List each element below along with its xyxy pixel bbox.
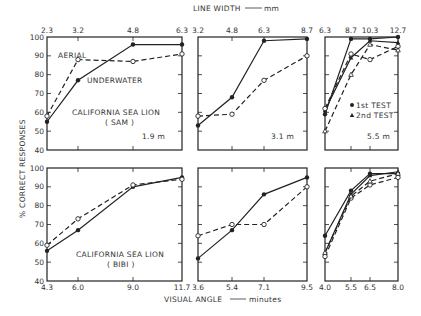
legend-1st-test: 1st TEST — [356, 101, 391, 110]
data-series — [45, 35, 401, 261]
series-underwater-2nd-test — [323, 169, 401, 254]
distance-label-3: 5.5 m — [367, 132, 390, 141]
x-tick-label: 4.0 — [319, 283, 331, 292]
distance-label-1: 1.9 m — [142, 132, 165, 141]
series-underwater — [45, 175, 184, 253]
panel-bibi-1: 4050607080901004.36.09.011.7 — [30, 164, 191, 292]
x-tick-label: 8.0 — [392, 283, 404, 292]
y-tick-label: 100 — [30, 164, 45, 173]
y-tick-label: 80 — [34, 201, 44, 210]
y-axis-title: % CORRECT RESPONSES — [18, 119, 27, 218]
underwater-label: UNDERWATER — [87, 76, 143, 85]
sam-label-2: ( SAM ) — [105, 118, 134, 127]
y-tick-label: 90 — [34, 51, 44, 60]
x-tick-label: 6.0 — [72, 283, 84, 292]
y-tick-label: 70 — [34, 89, 44, 98]
x-tick-label: 5.5 — [345, 283, 357, 292]
bibi-label-1: CALIFORNIA SEA LION — [76, 250, 164, 259]
y-tick-label: 90 — [34, 182, 44, 191]
x-tick-label: 11.7 — [174, 283, 191, 292]
y-tick-label: 80 — [34, 70, 44, 79]
x-tick-label: 3.2 — [192, 26, 204, 35]
x-tick-label: 5.4 — [226, 283, 238, 292]
y-tick-label: 50 — [34, 127, 44, 136]
legend-filled-circle-icon — [350, 103, 354, 107]
x-tick-label: 8.7 — [301, 26, 313, 35]
series-underwater — [196, 175, 309, 260]
x-tick-label: 6.3 — [258, 26, 270, 35]
x-tick-label: 12.7 — [390, 26, 407, 35]
sam-label-1: CALIFORNIA SEA LION — [72, 108, 160, 117]
x-tick-label: 9.0 — [127, 283, 139, 292]
y-tick-label: 60 — [34, 239, 44, 248]
top-axis-title: LINE WIDTH — [193, 4, 241, 13]
panel-sam-5.5m: 6.38.710.312.7 — [319, 26, 407, 150]
panel-bibi-3: 4.05.56.58.0 — [319, 168, 404, 292]
x-tick-label: 3.2 — [72, 26, 84, 35]
x-tick-label: 7.1 — [258, 283, 270, 292]
y-tick-label: 50 — [34, 258, 44, 267]
x-tick-label: 6.5 — [364, 283, 376, 292]
series-underwater-1st-test — [323, 171, 400, 238]
chart-figure: 4050607080901002.33.24.86.33.24.86.38.76… — [0, 0, 421, 316]
series-aerial — [196, 185, 309, 238]
x-tick-label: 6.3 — [319, 26, 331, 35]
x-tick-label: 4.8 — [127, 26, 139, 35]
bibi-label-2: ( BIBI ) — [107, 260, 135, 269]
panel-bibi-2: 3.65.47.19.5 — [192, 168, 313, 292]
x-tick-label: 3.6 — [192, 283, 204, 292]
bottom-axis-unit: minutes — [249, 295, 281, 304]
x-tick-label: 4.3 — [41, 283, 53, 292]
aerial-label: AERIAL — [58, 51, 87, 60]
y-tick-label: 70 — [34, 220, 44, 229]
series-aerial — [196, 54, 309, 119]
x-tick-label: 6.3 — [176, 26, 188, 35]
legend-triangle-icon — [350, 113, 355, 117]
y-tick-label: 60 — [34, 108, 44, 117]
x-tick-label: 10.3 — [362, 26, 379, 35]
x-tick-label: 9.5 — [301, 283, 313, 292]
series-aerial — [45, 177, 184, 247]
series-underwater — [196, 37, 309, 128]
y-tick-label: 40 — [34, 146, 44, 155]
x-tick-label: 4.8 — [226, 26, 238, 35]
panel-sam-3.1m: 3.24.86.38.7 — [192, 26, 313, 150]
bottom-axis-title: VISUAL ANGLE — [164, 295, 222, 304]
distance-label-2: 3.1 m — [271, 132, 294, 141]
legend-2nd-test: 2nd TEST — [356, 111, 394, 120]
x-tick-label: 8.7 — [345, 26, 357, 35]
top-axis-unit: mm — [264, 4, 279, 13]
x-tick-label: 2.3 — [41, 26, 53, 35]
